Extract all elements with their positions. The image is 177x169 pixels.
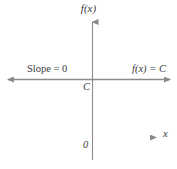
vertical-axis-label: f(x) (0, 3, 177, 14)
origin-label: 0 (83, 140, 88, 151)
function-annotation: f(x) = C (132, 64, 166, 75)
constant-function-figure: f(x) Slope = 0 f(x) = C C 0 x (0, 0, 177, 169)
intercept-label: C (83, 82, 90, 93)
slope-annotation: Slope = 0 (27, 64, 67, 75)
horizontal-axis-label: x (163, 129, 168, 140)
vertical-axis-label-text: f(x) (81, 2, 96, 14)
